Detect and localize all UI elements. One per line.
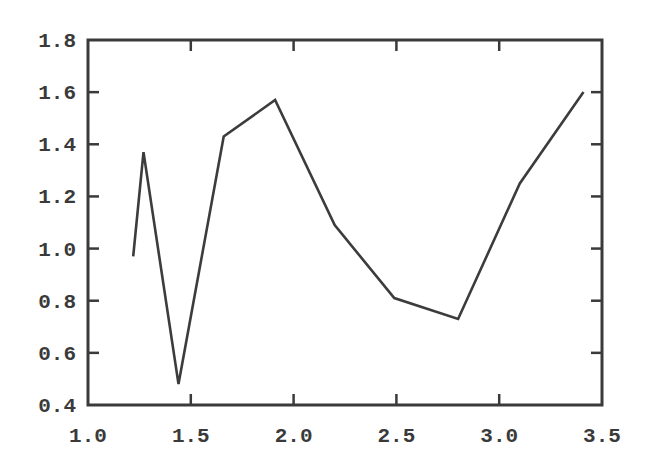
y-axis-tick-labels: 0.40.60.81.01.21.41.61.8 (38, 30, 76, 418)
y-tick-label: 1.2 (38, 186, 76, 209)
x-axis-ticks (191, 40, 499, 405)
x-tick-label: 3.0 (480, 425, 518, 448)
x-tick-label: 1.5 (172, 425, 210, 448)
y-tick-label: 1.4 (38, 134, 76, 157)
line-chart: 0.40.60.81.01.21.41.61.8 1.01.52.02.53.0… (0, 0, 650, 464)
plot-frame (88, 40, 602, 405)
data-series-line (133, 92, 583, 384)
x-tick-label: 1.0 (69, 425, 107, 448)
y-tick-label: 1.8 (38, 30, 76, 53)
y-axis-ticks (88, 92, 602, 353)
x-axis-tick-labels: 1.01.52.02.53.03.5 (69, 425, 621, 448)
y-tick-label: 0.8 (38, 291, 76, 314)
x-tick-label: 2.5 (377, 425, 415, 448)
y-tick-label: 1.6 (38, 82, 76, 105)
x-tick-label: 3.5 (583, 425, 621, 448)
x-tick-label: 2.0 (275, 425, 313, 448)
y-tick-label: 0.4 (38, 395, 76, 418)
y-tick-label: 1.0 (38, 239, 76, 262)
y-tick-label: 0.6 (38, 343, 76, 366)
